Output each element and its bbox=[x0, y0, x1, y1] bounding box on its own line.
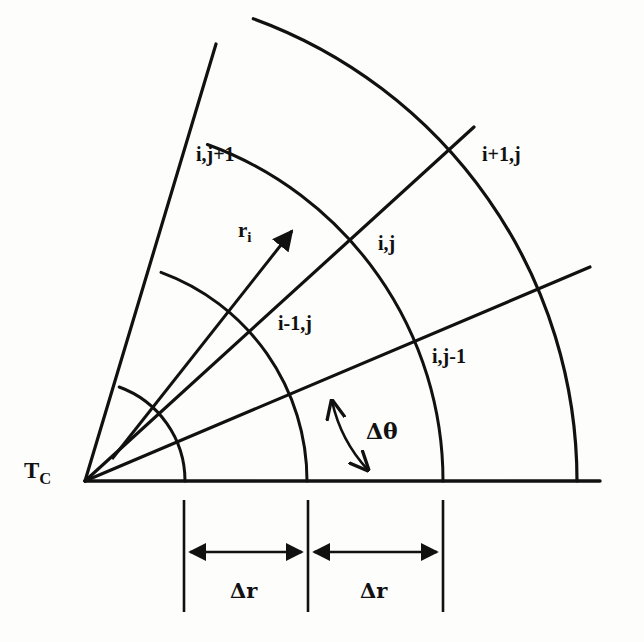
node-label-i-j-minus-1: i,j-1 bbox=[432, 345, 466, 368]
delta-theta-label: Δθ bbox=[366, 418, 398, 444]
node-label-i-plus-1-j: i+1,j bbox=[482, 143, 521, 166]
arc-r-outer bbox=[253, 19, 577, 481]
node-label-i-minus-1-j: i-1,j bbox=[278, 312, 312, 335]
arc-r-third bbox=[207, 145, 443, 482]
ray-theta-lower bbox=[85, 267, 590, 481]
node-label-i-j: i,j bbox=[378, 232, 395, 255]
ray-theta-upper bbox=[85, 44, 216, 481]
center-temperature-subscript: C bbox=[39, 469, 51, 488]
delta-r-label-left: Δr bbox=[230, 578, 257, 603]
center-temperature-label: TC bbox=[24, 458, 51, 489]
radius-subscript: i bbox=[247, 229, 251, 245]
delta-theta-arc-arrow bbox=[332, 401, 368, 470]
radius-symbol: r bbox=[238, 218, 247, 242]
node-label-i-j-plus-1: i,j+1 bbox=[196, 143, 235, 166]
diagram-canvas bbox=[0, 0, 644, 642]
center-temperature-symbol: T bbox=[24, 458, 39, 483]
delta-r-label-right: Δr bbox=[360, 578, 387, 603]
radius-vector-arrow bbox=[112, 231, 292, 459]
polar-grid-diagram: TC ri i,j+1 i+1,j i,j i-1,j i,j-1 Δθ Δr … bbox=[0, 0, 644, 642]
radius-label: ri bbox=[238, 218, 252, 246]
